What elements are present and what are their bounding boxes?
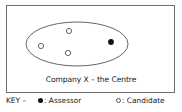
legend-title: KEY – [6, 96, 26, 105]
candidate-node-icon [38, 43, 43, 48]
candidate-node-icon [65, 50, 70, 55]
candidate-node-icon [66, 28, 71, 33]
legend: KEY – : Assessor : Candidate [0, 96, 182, 110]
legend-assessor-label: : Assessor [44, 96, 81, 105]
legend-assessor: : Assessor [38, 96, 81, 105]
diagram-caption: Company X – the Centre [0, 75, 182, 84]
filled-circle-icon [38, 98, 43, 103]
legend-candidate: : Candidate [116, 96, 165, 105]
assessor-node-icon [108, 39, 114, 45]
legend-candidate-label: : Candidate [122, 96, 165, 105]
hollow-circle-icon [116, 98, 121, 103]
